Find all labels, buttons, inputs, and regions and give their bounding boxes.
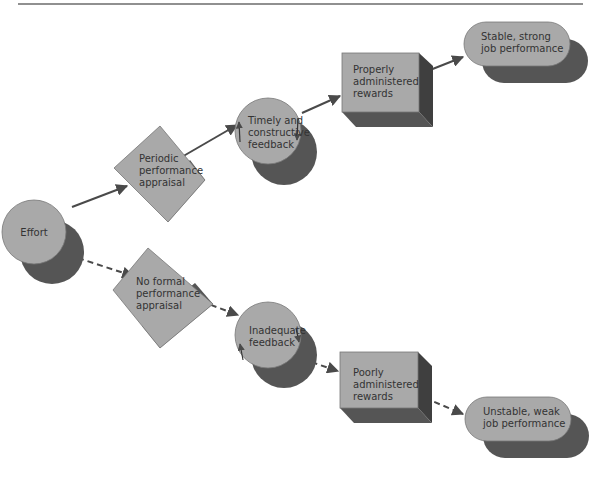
box-bottom-side <box>340 408 432 423</box>
node-label-line: administered <box>353 76 419 87</box>
node-label-line: rewards <box>353 88 393 99</box>
node-label-line: administered <box>353 379 419 390</box>
svg-text:Unstable, weak job perfo: Unstable, weak job performance <box>482 406 565 429</box>
node-label-line: feedback <box>249 337 295 348</box>
node-label-line: No formal <box>136 276 185 287</box>
edge-effort-periodic <box>72 186 127 207</box>
node-label-line: rewards <box>353 391 393 402</box>
node-inadequate-feedback: Inadequate feedback <box>235 302 317 388</box>
node-label: Effort <box>20 227 47 238</box>
node-poorly-administered-rewards: Poorly administered rewards <box>340 352 432 423</box>
node-label-line: Stable, strong <box>481 31 551 42</box>
node-label-line: appraisal <box>136 300 182 311</box>
node-label-line: performance <box>139 165 203 176</box>
node-label-line: Periodic <box>139 153 178 164</box>
node-label-line: constructive <box>248 127 310 138</box>
node-label-line: performance <box>136 288 200 299</box>
node-no-formal-performance-appraisal: No formal performance appraisal <box>113 248 213 348</box>
node-unstable-weak-job-performance: Unstable, weak job performance <box>465 397 589 458</box>
svg-text:Stable, strong job perfo: Stable, strong job performance <box>480 31 563 54</box>
node-label-line: Timely and <box>247 115 303 126</box>
node-label-line: appraisal <box>139 177 185 188</box>
node-label-line: Properly <box>353 64 394 75</box>
node-effort: Effort <box>2 200 84 284</box>
svg-text:Effort: Effort <box>20 227 47 238</box>
node-label-line: job performance <box>482 418 565 429</box>
node-label-line: feedback <box>248 139 294 150</box>
edge-effort-noformal <box>78 258 133 276</box>
edge-timely-properly <box>302 96 340 113</box>
node-periodic-performance-appraisal: Periodic performance appraisal <box>114 126 206 222</box>
box-bottom-side <box>342 112 433 127</box>
edge-periodic-timely <box>180 125 237 158</box>
node-label-line: Unstable, weak <box>483 406 560 417</box>
node-label-line: job performance <box>480 43 563 54</box>
node-label-line: Inadequate <box>249 325 306 336</box>
performance-appraisal-flow-diagram: Effort Periodic performance appraisal No… <box>0 0 601 478</box>
node-stable-strong-job-performance: Stable, strong job performance <box>464 22 588 83</box>
node-properly-administered-rewards: Properly administered rewards <box>342 53 433 127</box>
node-label-line: Poorly <box>353 367 384 378</box>
